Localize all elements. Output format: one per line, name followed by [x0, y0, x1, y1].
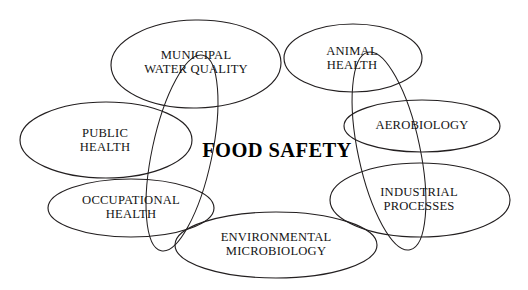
ellipse-aerobiology [344, 100, 500, 152]
ellipse-public-health [20, 102, 192, 178]
ellipse-industrial-processes [330, 163, 510, 237]
connector-ellipse-group [132, 46, 440, 257]
ellipse-environmental-microbiology [175, 212, 377, 278]
food-safety-diagram: MUNICIPAL WATER QUALITYANIMAL HEALTHAERO… [0, 0, 528, 290]
ellipse-occupational-health [48, 179, 214, 237]
node-ellipse-group [20, 19, 510, 278]
diagram-canvas [0, 0, 528, 290]
ellipse-left-vertical-loop [132, 49, 232, 257]
ellipse-municipal-water-quality [110, 19, 282, 110]
